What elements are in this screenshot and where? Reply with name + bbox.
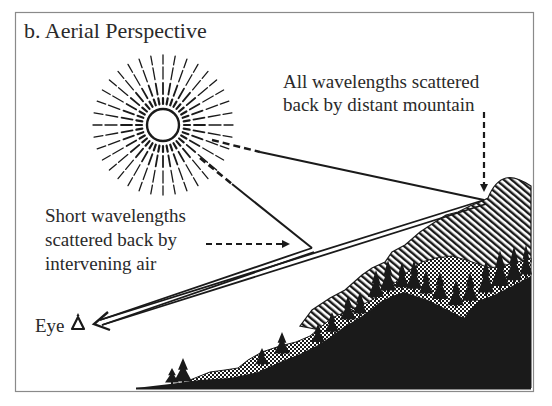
sun-ray	[119, 155, 128, 163]
sun-ray	[171, 68, 173, 80]
sun-ray	[220, 101, 229, 104]
sun-ray	[146, 104, 150, 109]
sun-ray	[179, 89, 185, 99]
sun-ray	[143, 168, 147, 179]
sun-ray	[113, 96, 123, 102]
sun-ray	[194, 130, 205, 132]
sun-ray	[94, 136, 103, 138]
sun-ray	[146, 141, 150, 146]
sun-ray	[143, 71, 147, 82]
sun-ray	[208, 133, 220, 135]
sun-ray	[106, 115, 118, 117]
sun-ray	[128, 64, 133, 72]
aerial-perspective-figure: b. Aerial Perspective All wavelengths sc…	[0, 0, 552, 406]
sun-icon	[93, 55, 233, 195]
sun-ray	[122, 118, 133, 120]
sun-ray	[106, 133, 118, 135]
sun-ray	[126, 81, 134, 90]
ray-sun-to-air-dashed	[200, 158, 232, 184]
sun-ray	[179, 168, 183, 179]
sun-ray	[184, 59, 187, 67]
sun-ray	[138, 116, 144, 118]
sun-ray	[131, 98, 140, 105]
sun-ray	[190, 104, 200, 110]
sun-ray	[194, 64, 199, 72]
sun-ray	[216, 156, 224, 161]
sun-ray	[171, 170, 173, 182]
sun-ray	[109, 164, 116, 170]
sun-ray	[203, 148, 213, 154]
figure-title: b. Aerial Perspective	[24, 20, 207, 42]
sun-ray	[127, 141, 137, 147]
sun-ray	[206, 105, 217, 109]
sun-ray	[170, 145, 172, 151]
sun-ray	[150, 143, 153, 148]
sun-ray	[109, 105, 120, 109]
sun-ray	[192, 136, 202, 140]
sun-ray	[202, 172, 208, 179]
sun-ray	[198, 88, 207, 96]
sun-ray	[150, 102, 153, 107]
sun-ray	[119, 88, 128, 96]
sun-ray	[151, 185, 153, 194]
sun-ray	[174, 102, 177, 107]
sun-ray	[181, 112, 186, 115]
sun-ray	[142, 139, 147, 143]
sun-ray	[223, 113, 232, 115]
sun-ray	[134, 165, 140, 175]
sun-ray	[97, 101, 106, 104]
sun-ray	[194, 178, 199, 186]
sun-ray	[216, 90, 224, 95]
sun-ray	[186, 75, 192, 85]
sun-ray	[158, 98, 159, 104]
sun-ray	[142, 152, 148, 162]
sun-ray	[184, 120, 190, 121]
sun-ray	[142, 108, 147, 112]
sun-ray	[179, 108, 184, 112]
sun-ray	[126, 160, 134, 169]
sun-ray	[118, 172, 124, 179]
sun-ray	[156, 84, 158, 95]
tree	[174, 358, 192, 384]
sun-ray	[203, 96, 213, 102]
air-label-line-1: Short wavelengths	[45, 206, 186, 225]
sun-ray	[149, 86, 153, 96]
sun-ray	[122, 130, 133, 132]
sun-ray	[208, 115, 220, 117]
sun-ray	[193, 160, 201, 169]
air-label-line-2: scattered back by	[45, 230, 177, 249]
sun-ray	[183, 93, 190, 102]
sun-ray	[187, 145, 196, 152]
sun-ray	[158, 146, 159, 152]
sun-ray	[181, 136, 186, 139]
ray-sun-to-mountain	[260, 152, 484, 200]
sun-ray	[174, 154, 178, 164]
sun-ray	[183, 116, 189, 118]
sun-ray	[154, 100, 156, 106]
sun-ray	[127, 104, 137, 110]
sun-ray	[193, 81, 201, 90]
sun-ray	[174, 185, 176, 194]
sun-ray	[153, 170, 155, 182]
sun-ray	[142, 89, 148, 99]
sun-ray	[183, 149, 190, 158]
diagram-canvas	[0, 0, 552, 406]
sun-ray	[136, 129, 142, 130]
sun-ray	[154, 145, 156, 151]
sun-ray	[134, 75, 140, 85]
sun-ray	[223, 136, 232, 138]
sun-ray	[220, 146, 229, 149]
air-label-line-3: intervening air	[45, 254, 156, 273]
sun-ray	[131, 145, 140, 152]
sun-disc	[147, 109, 179, 141]
sun-ray	[192, 111, 202, 115]
sun-ray	[202, 71, 208, 78]
sun-ray	[170, 100, 172, 106]
mountain-label-line-2: back by distant mountain	[283, 95, 475, 114]
ray-sun-to-air	[232, 184, 312, 248]
sun-ray	[177, 141, 181, 146]
eye-icon	[72, 313, 84, 329]
sun-ray	[109, 80, 116, 86]
sun-ray	[139, 59, 142, 67]
sun-ray	[136, 149, 143, 158]
